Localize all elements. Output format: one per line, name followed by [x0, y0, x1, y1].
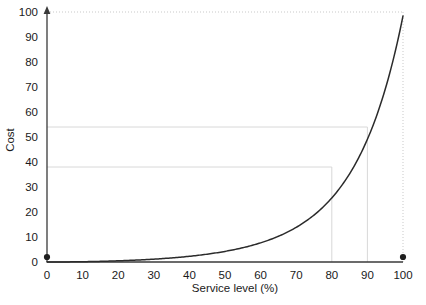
- x-tick-label: 60: [254, 269, 267, 281]
- y-axis-arrow-icon: [44, 6, 51, 14]
- y-tick-label: 0: [32, 256, 38, 268]
- x-tick-label: 80: [325, 269, 338, 281]
- x-tick-label: 10: [76, 269, 89, 281]
- x-tick-label: 50: [219, 269, 232, 281]
- chart-canvas: 0102030405060708090100 01020304050607080…: [0, 0, 426, 305]
- data-point-markers: [44, 254, 406, 260]
- curve-group: [47, 16, 403, 262]
- y-axis-tick-labels: 0102030405060708090100: [19, 6, 38, 268]
- y-tick-label: 50: [25, 131, 38, 143]
- y-tick-label: 40: [25, 156, 38, 168]
- x-tick-label: 90: [361, 269, 374, 281]
- y-tick-label: 90: [25, 31, 38, 43]
- y-tick-label: 10: [25, 231, 38, 243]
- y-tick-label: 60: [25, 106, 38, 118]
- gridlines-group: [47, 12, 403, 262]
- y-tick-label: 30: [25, 181, 38, 193]
- cost-vs-service-level-chart: 0102030405060708090100 01020304050607080…: [0, 0, 426, 305]
- data-point-dot: [44, 254, 50, 260]
- data-point-dot: [400, 254, 406, 260]
- x-axis-tick-labels: 0102030405060708090100: [44, 269, 413, 281]
- y-tick-label: 70: [25, 81, 38, 93]
- x-tick-label: 100: [393, 269, 412, 281]
- y-tick-label: 100: [19, 6, 38, 18]
- axes-group: [44, 6, 403, 262]
- x-tick-label: 0: [44, 269, 50, 281]
- x-tick-label: 30: [147, 269, 160, 281]
- x-tick-label: 40: [183, 269, 196, 281]
- y-axis-title: Cost: [4, 127, 16, 151]
- x-tick-label: 70: [290, 269, 303, 281]
- cost-curve-line: [47, 16, 403, 262]
- x-tick-label: 20: [112, 269, 125, 281]
- y-tick-label: 20: [25, 206, 38, 218]
- y-tick-label: 80: [25, 56, 38, 68]
- x-axis-title: Service level (%): [192, 282, 278, 294]
